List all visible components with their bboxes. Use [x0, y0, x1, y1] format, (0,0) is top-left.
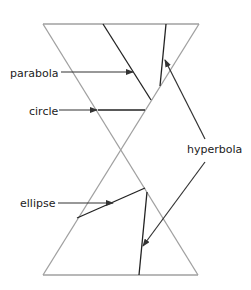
parabola-label: parabola [10, 67, 59, 80]
circle-label: circle [29, 105, 58, 118]
hyperbola-upper-arrow-icon [165, 60, 205, 139]
double-cone [43, 24, 199, 275]
hyperbola-label: hyperbola [187, 143, 242, 156]
conic-sections-diagram: parabola circle hyperbola ellipse [0, 0, 251, 290]
hyperbola-lower-section-line [139, 192, 147, 275]
hyperbola-lower-arrow-icon [143, 162, 205, 246]
ellipse-label: ellipse [20, 197, 56, 210]
label-arrows [58, 60, 205, 246]
parabola-section-line [103, 24, 151, 100]
hyperbola-upper-section-line [160, 24, 166, 86]
